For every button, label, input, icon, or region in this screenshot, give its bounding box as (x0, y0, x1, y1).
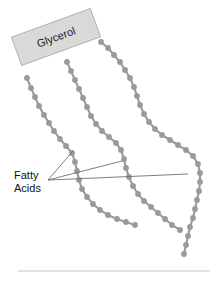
carbon-bead (181, 251, 187, 257)
carbon-bead (134, 93, 140, 99)
carbon-bead (84, 104, 90, 110)
carbon-bead (46, 120, 52, 126)
carbon-bead (177, 227, 183, 233)
carbon-bead (118, 147, 124, 153)
fatty-acid-chains-group (24, 39, 203, 257)
carbon-bead (93, 121, 99, 127)
leader-to-chain-left-upper (48, 151, 73, 180)
carbon-bead (169, 222, 175, 228)
carbon-bead (192, 206, 198, 212)
chain-middle (64, 59, 183, 233)
carbon-bead (183, 242, 189, 248)
carbon-bead (131, 84, 137, 90)
diagram-canvas: Glycerol Fatty Acids (0, 0, 214, 284)
fatty-acids-label: Fatty Acids (14, 169, 41, 194)
carbon-bead (28, 85, 34, 91)
carbon-bead (135, 191, 141, 197)
carbon-bead (122, 67, 128, 73)
carbon-bead (41, 112, 47, 118)
carbon-bead (175, 142, 181, 148)
carbon-bead (137, 102, 143, 108)
carbon-bead (90, 201, 96, 207)
carbon-bead (36, 103, 42, 109)
carbon-bead (195, 161, 201, 167)
carbon-bead (132, 222, 138, 228)
carbon-bead (196, 188, 202, 194)
carbon-bead (57, 136, 63, 142)
carbon-bead (99, 128, 105, 134)
chain-right (98, 39, 203, 257)
carbon-bead (190, 215, 196, 221)
carbon-bead (97, 207, 103, 213)
carbon-bead (64, 59, 70, 65)
fatty-acids-label-line2: Acids (14, 182, 41, 194)
carbon-bead (123, 165, 129, 171)
carbon-bead (68, 68, 74, 74)
carbon-bead (127, 75, 133, 81)
carbon-bead (190, 153, 196, 159)
carbon-bead (141, 111, 147, 117)
carbon-bead (24, 75, 30, 81)
carbon-bead (197, 170, 203, 176)
carbon-bead (183, 147, 189, 153)
carbon-bead (155, 210, 161, 216)
carbon-bead (106, 134, 112, 140)
carbon-bead (72, 77, 78, 83)
carbon-bead (98, 39, 104, 45)
fatty-acids-label-line1: Fatty (14, 169, 39, 181)
carbon-bead (141, 198, 147, 204)
carbon-bead (51, 128, 57, 134)
carbon-bead (148, 204, 154, 210)
triglyceride-diagram: Glycerol Fatty Acids (0, 0, 214, 284)
fatty-acids-leader-lines (48, 151, 188, 180)
glycerol-box: Glycerol (11, 9, 100, 66)
carbon-bead (76, 86, 82, 92)
carbon-bead (76, 177, 82, 183)
carbon-bead (167, 137, 173, 143)
carbon-bead (187, 224, 193, 230)
carbon-bead (105, 212, 111, 218)
carbon-bead (197, 179, 203, 185)
carbon-bead (80, 95, 86, 101)
carbon-bead (162, 216, 168, 222)
carbon-bead (159, 132, 165, 138)
carbon-bead (123, 219, 129, 225)
carbon-bead (105, 45, 111, 51)
carbon-bead (32, 94, 38, 100)
carbon-bead (63, 143, 69, 149)
carbon-bead (111, 52, 117, 58)
carbon-bead (79, 186, 85, 192)
carbon-bead (84, 194, 90, 200)
carbon-bead (194, 197, 200, 203)
carbon-bead (185, 233, 191, 239)
carbon-bead (146, 119, 152, 125)
carbon-bead (88, 113, 94, 119)
carbon-bead (152, 126, 158, 132)
carbon-bead (113, 140, 119, 146)
carbon-bead (72, 159, 78, 165)
carbon-bead (117, 59, 123, 65)
carbon-bead (114, 216, 120, 222)
carbon-bead (130, 183, 136, 189)
chain-middle-backbone (67, 62, 180, 230)
